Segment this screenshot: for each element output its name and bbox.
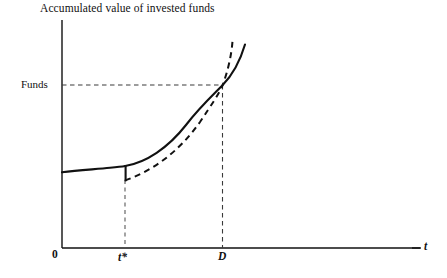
accumulation-curve-post-drop bbox=[125, 45, 245, 167]
x-axis-tick-label-d: D bbox=[218, 251, 226, 263]
x-axis-name-label: t bbox=[424, 241, 427, 253]
chart-title: Accumulated value of invested funds bbox=[40, 3, 215, 15]
chart-canvas bbox=[0, 0, 447, 278]
post-withdrawal-accumulation-curve bbox=[125, 41, 233, 181]
x-axis-tick-label-tstar: t* bbox=[118, 252, 127, 264]
chart-figure: Accumulated value of invested funds Fund… bbox=[0, 0, 447, 278]
y-axis-tick-label-funds: Funds bbox=[21, 79, 48, 90]
axis-origin-label: 0 bbox=[52, 249, 58, 261]
accumulation-curve-pre-drop bbox=[62, 166, 125, 172]
